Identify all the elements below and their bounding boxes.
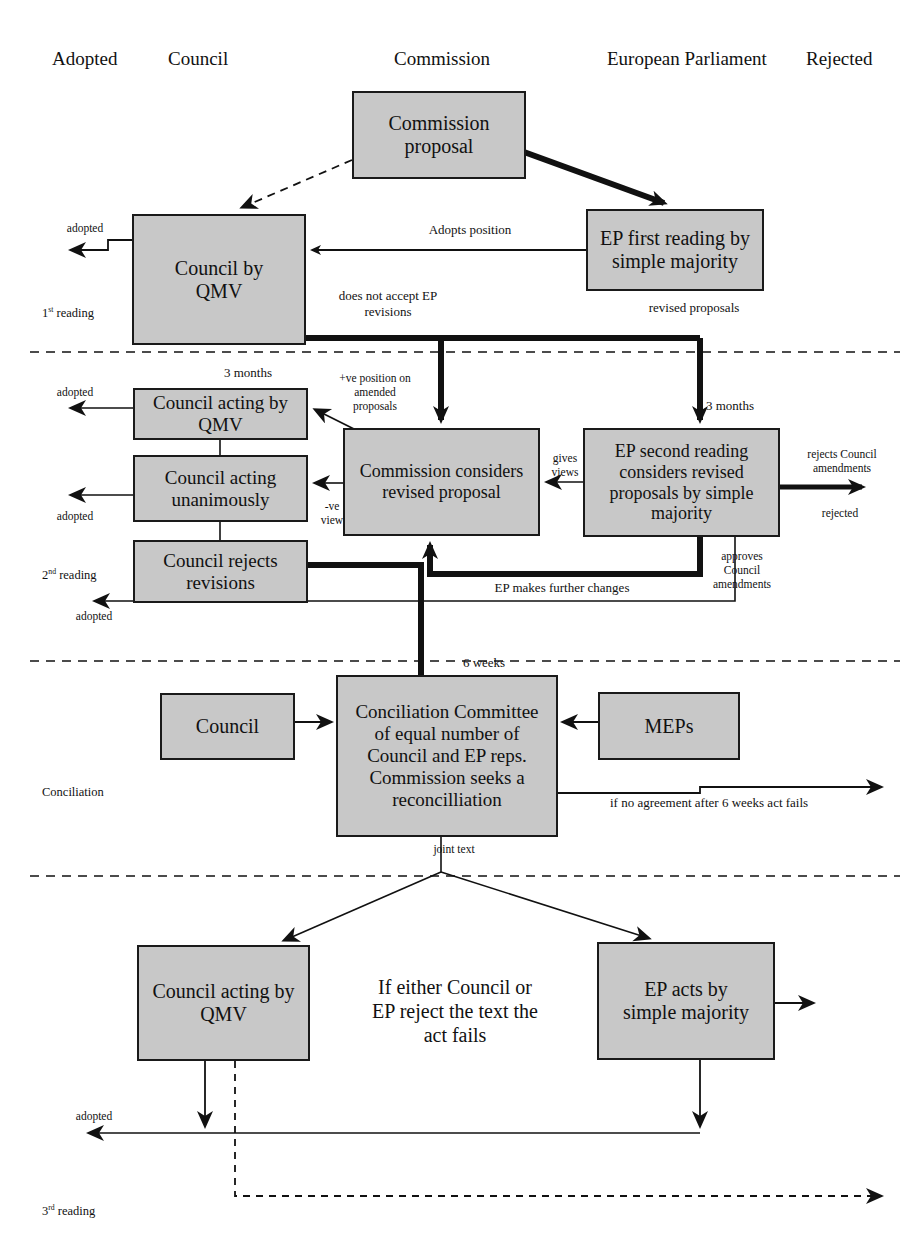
edge-proposal-to-council bbox=[243, 160, 352, 207]
edge-proposal-to-ep bbox=[524, 152, 664, 203]
label-does-not-accept: does not accept EP revisions bbox=[318, 288, 458, 319]
box-label: EP second reading considers revised prop… bbox=[610, 441, 754, 524]
label-gives-views: gives views bbox=[544, 452, 586, 480]
label-adopted-qmv-second: adopted bbox=[42, 386, 108, 400]
label-adopted-third: adopted bbox=[58, 1110, 130, 1124]
label-no-agreement: if no agreement after 6 weeks act fails bbox=[610, 795, 880, 811]
box-label: Council acting unanimously bbox=[165, 467, 276, 511]
box-council-acting-qmv[interactable]: Council acting by QMV bbox=[133, 388, 308, 440]
label-three-months-right: 3 months bbox=[690, 398, 770, 414]
edge-joint-text-to-council bbox=[285, 872, 441, 940]
label-adopts-position: Adopts position bbox=[400, 222, 540, 238]
stage-label-first-reading: 1st reading bbox=[42, 290, 162, 321]
stage-label-conciliation: Conciliation bbox=[42, 785, 172, 800]
box-council-qmv-first[interactable]: Council by QMV bbox=[132, 214, 306, 345]
box-conciliation-committee[interactable]: Conciliation Committee of equal number o… bbox=[336, 675, 558, 837]
box-label: Council rejects revisions bbox=[163, 550, 278, 594]
box-label: Council by QMV bbox=[175, 257, 263, 303]
box-ep-acts[interactable]: EP acts by simple majority bbox=[597, 942, 775, 1060]
label-adopted-rejects-revisions: adopted bbox=[58, 610, 130, 624]
edge-council-adopted-first bbox=[72, 240, 132, 250]
stage-ordinal-suffix: nd bbox=[48, 567, 56, 576]
edge-ep-further-changes bbox=[430, 537, 700, 574]
label-ep-makes-further-changes: EP makes further changes bbox=[452, 580, 672, 596]
label-rejects-council-amendments: rejects Council amendments bbox=[782, 448, 902, 476]
label-six-weeks: 6 weeks bbox=[444, 655, 524, 671]
stage-label-second-reading: 2nd reading bbox=[42, 552, 162, 583]
box-label: Council acting by QMV bbox=[153, 392, 288, 436]
stage-word: reading bbox=[56, 568, 97, 582]
edge-third-reading-fails bbox=[235, 1061, 880, 1196]
label-revised-proposals: revised proposals bbox=[624, 300, 764, 316]
box-label: Conciliation Committee of equal number o… bbox=[355, 701, 538, 810]
label-adopted-unanimous-second: adopted bbox=[42, 510, 108, 524]
flowchart-canvas: Adopted Council Commission European Parl… bbox=[0, 0, 922, 1244]
label-approves-council-amendments: approves Council amendments bbox=[700, 550, 784, 591]
box-label: Commission considers revised proposal bbox=[360, 461, 524, 502]
box-council-conciliation[interactable]: Council bbox=[160, 693, 295, 760]
label-if-either-rejects: If either Council or EP reject the text … bbox=[345, 975, 565, 1047]
edge-joint-text-to-ep bbox=[441, 872, 648, 938]
box-council-acting-unanimously[interactable]: Council acting unanimously bbox=[133, 455, 308, 522]
label-rejected-second: rejected bbox=[800, 507, 880, 521]
label-positive-position: +ve position on amended proposals bbox=[320, 372, 430, 413]
box-commission-considers[interactable]: Commission considers revised proposal bbox=[343, 428, 540, 536]
box-label: EP acts by simple majority bbox=[623, 978, 749, 1024]
label-three-months-left: 3 months bbox=[208, 365, 288, 381]
stage-word: reading bbox=[55, 1204, 96, 1218]
edge-no-agreement-fails bbox=[558, 787, 880, 793]
box-label: MEPs bbox=[645, 715, 694, 738]
label-negative-view: -ve view bbox=[314, 500, 350, 528]
box-commission-proposal[interactable]: Commission proposal bbox=[352, 91, 526, 179]
box-label: EP first reading by simple majority bbox=[600, 227, 750, 273]
stage-word: reading bbox=[53, 306, 94, 320]
box-label: Commission proposal bbox=[388, 112, 489, 158]
label-joint-text: joint text bbox=[414, 843, 494, 857]
label-adopted-first: adopted bbox=[50, 222, 120, 236]
box-meps[interactable]: MEPs bbox=[598, 692, 740, 760]
box-ep-first-reading[interactable]: EP first reading by simple majority bbox=[586, 209, 764, 291]
box-label: Council acting by QMV bbox=[152, 980, 294, 1026]
box-label: Council bbox=[196, 715, 259, 738]
box-council-acting-qmv-third[interactable]: Council acting by QMV bbox=[137, 945, 310, 1061]
box-ep-second-reading[interactable]: EP second reading considers revised prop… bbox=[583, 428, 780, 537]
stage-label-third-reading: 3rd reading bbox=[42, 1188, 162, 1219]
